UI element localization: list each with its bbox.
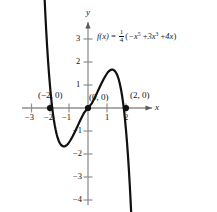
annotation-point-2: (2, 0) (130, 91, 150, 100)
equation-term1-exponent: 5 (138, 31, 141, 37)
y-tick-label-1: 1 (76, 80, 80, 89)
x-tick-label-minus2: −2 (44, 113, 53, 122)
equation-coefficient-fraction: 1 4 (119, 29, 125, 44)
y-tick-label-2: 2 (76, 57, 80, 66)
x-axis-label: x (155, 103, 159, 112)
x-tick-label-minus1: −1 (62, 113, 71, 122)
fraction-numerator: 1 (119, 29, 125, 36)
equation-equals: = (111, 31, 116, 41)
y-tick-label-minus3: −3 (73, 172, 82, 181)
equation-close-paren: ) (173, 31, 176, 41)
equation-term2-base: 3x (148, 31, 156, 41)
annotation-point-minus2: (−2, 0) (38, 91, 63, 100)
marked-point-minus2 (47, 105, 53, 111)
x-tick-label-minus3: −3 (25, 113, 34, 122)
y-axis-label: y (86, 8, 90, 17)
marked-point-origin (85, 105, 91, 111)
function-equation: f(x) = 1 4 (−x5 +3x3 +4x) (97, 29, 176, 44)
equation-function-name: f(x) (97, 31, 109, 41)
y-tick-label-minus2: −2 (73, 149, 82, 158)
y-tick-label-3: 3 (76, 34, 80, 43)
equation-term1-base: −x (128, 31, 138, 41)
annotation-point-origin: (0, 0) (89, 93, 109, 102)
x-axis-arrowhead (146, 105, 153, 110)
y-tick-label-minus1: −1 (73, 126, 82, 135)
marked-point-2 (123, 105, 129, 111)
y-axis-arrowhead (85, 22, 90, 29)
x-tick-label-2: 2 (124, 113, 128, 122)
function-graph-figure: y x f(x) = 1 4 (−x5 +3x3 +4x) −3 −2 −1 1… (0, 0, 217, 212)
x-tick-label-1: 1 (105, 113, 109, 122)
y-tick-label-minus4: −4 (73, 195, 82, 204)
fraction-denominator: 4 (119, 36, 125, 44)
equation-term2-exponent: 3 (156, 31, 159, 37)
